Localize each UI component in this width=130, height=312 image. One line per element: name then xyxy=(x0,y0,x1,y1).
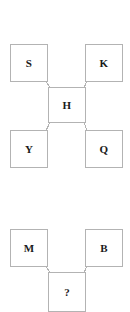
node-box-h[interactable]: H xyxy=(48,87,86,123)
node-box-y[interactable]: Y xyxy=(10,130,48,168)
node-label-s: S xyxy=(26,57,32,68)
node-box-unknown[interactable]: ? xyxy=(48,272,86,312)
node-box-k[interactable]: K xyxy=(85,44,123,82)
node-label-k: K xyxy=(100,57,109,68)
node-box-s[interactable]: S xyxy=(10,44,48,82)
node-label-b: B xyxy=(100,242,108,253)
node-box-q[interactable]: Q xyxy=(85,130,123,168)
node-label-m: M xyxy=(24,242,35,253)
node-label-y: Y xyxy=(25,143,33,154)
node-box-b[interactable]: B xyxy=(85,229,123,267)
node-label-h: H xyxy=(63,99,72,110)
node-label-unknown: ? xyxy=(64,286,70,297)
node-box-m[interactable]: M xyxy=(10,229,48,267)
node-label-q: Q xyxy=(100,143,109,154)
